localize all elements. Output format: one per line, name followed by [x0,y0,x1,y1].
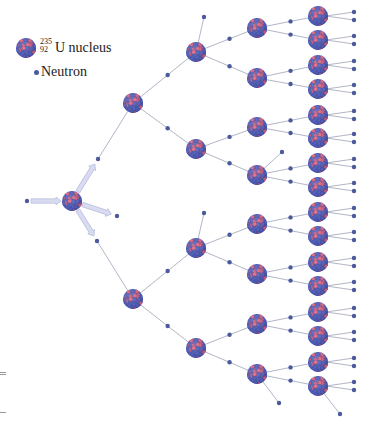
fission-arrow-icon [74,162,98,194]
neutron-icon [165,73,169,77]
neutron-icon [352,165,356,169]
uranium-nucleus-icon [307,128,329,148]
neutron-icon [352,91,356,95]
neutron-icon [352,59,356,63]
uranium-nucleus-icon [185,42,207,62]
neutron-icon [227,37,231,41]
uranium-nucleus-icon [307,376,329,396]
neutron-icon [227,333,231,337]
neutron-icon [95,239,99,243]
uranium-nucleus-icon [246,18,268,38]
neutron-icon [352,314,356,318]
neutron-icon [352,288,356,292]
neutron-icon [25,199,29,203]
uranium-nucleus-icon [307,153,329,173]
neutron-icon [288,228,292,232]
uranium-nucleus-icon [307,276,329,296]
neutron-icon [288,118,292,122]
neutron-icon [352,380,356,384]
neutron-icon [338,412,342,416]
neutron-icon [352,206,356,210]
neutron-icon [352,34,356,38]
neutron-icon [352,264,356,268]
neutron-icon [288,32,292,36]
uranium-nucleus-icon [185,238,207,258]
neutron-icon [352,157,356,161]
neutron-icon [288,278,292,282]
uranium-nucleus-icon [307,226,329,246]
neutron-icon [352,189,356,193]
uranium-nucleus-icon [307,202,329,222]
neutron-icon [34,70,39,75]
uranium-nucleus-icon [246,264,268,284]
neutron-icon [227,260,231,264]
neutron-icon [352,132,356,136]
margin-mark [0,412,6,413]
uranium-nuclei [61,6,329,396]
neutron-icon [352,364,356,368]
neutron-icon [227,135,231,139]
margin-mark [0,374,6,375]
neutron-icon [202,15,206,19]
neutron-icon [288,166,292,170]
neutron-icon [352,83,356,87]
neutron-icon [352,330,356,334]
uranium-nucleus-icon [307,79,329,99]
neutron-icon [352,117,356,121]
uranium-nucleus-icon [246,68,268,88]
neutron-icon [280,150,284,154]
neutron-icon [165,324,169,328]
neutron-icon [352,230,356,234]
fission-arrow-icon [81,201,112,218]
neutron-icon [352,280,356,284]
uranium-nucleus-icon [307,252,329,272]
margin-mark [0,372,6,373]
uranium-nucleus-icon [307,352,329,372]
uranium-nucleus-icon [307,302,329,322]
neutron-icon [352,18,356,22]
uranium-nucleus-icon [122,289,144,309]
neutron-icon [352,356,356,360]
uranium-nucleus-icon [246,364,268,384]
neutron-icon [288,179,292,183]
neutron-icon [288,315,292,319]
neutron-icon [288,378,292,382]
neutron-icon [202,211,206,215]
isotope-notation: 235 92 [40,38,52,54]
neutron-icon [288,365,292,369]
uranium-nucleus-icon [307,6,329,26]
neutron-icon [352,306,356,310]
uranium-nucleus-icon [307,55,329,75]
neutron-icon [288,328,292,332]
neutron-icon [96,157,100,161]
uranium-nucleus-icon [307,326,329,346]
uranium-nucleus-icon [246,117,268,137]
neutron-icon [165,269,169,273]
neutron-icon [165,126,169,130]
neutron-icon [227,161,231,165]
fission-arrow-icon [31,197,61,205]
neutron-icon [288,19,292,23]
neutron-icon [352,181,356,185]
uranium-nucleus-icon [246,214,268,234]
fission-arrow-icon [74,208,97,238]
uranium-nucleus-icon [185,338,207,358]
uranium-nucleus-icon [307,177,329,197]
uranium-nucleus-icon [61,191,83,211]
uranium-nucleus-icon [307,105,329,125]
uranium-nucleus-icon [122,93,144,113]
neutron-icon [352,238,356,242]
uranium-nucleus-icon [246,314,268,334]
neutron-icon [352,10,356,14]
neutron-icon [288,131,292,135]
neutron-label: Neutron [41,64,87,80]
neutron-icon [352,214,356,218]
neutron-icon [352,109,356,113]
neutron-icon [227,233,231,237]
neutron-icon [227,64,231,68]
uranium-nucleus-icon [307,30,329,50]
nucleus-label: U nucleus [55,40,111,56]
neutron-icon [288,265,292,269]
neutron-icon [288,215,292,219]
neutron-icon [352,256,356,260]
